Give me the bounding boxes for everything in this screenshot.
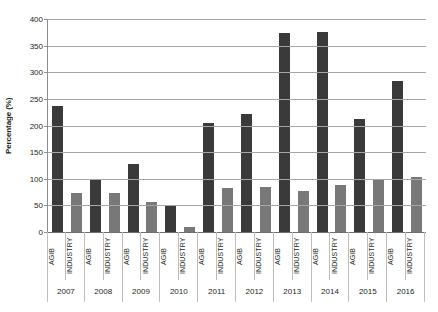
bar-2013-industry [298,191,309,232]
group-label-year: 2011 [208,287,225,296]
category-cell: AGIB [160,232,179,280]
group-label-year: 2010 [170,287,188,296]
y-tickmark [44,126,48,127]
group-cell-2008: 2008 [85,280,123,302]
group-label-year: 2014 [321,287,339,296]
category-cell: INDUSTRY [368,232,387,280]
category-cell: INDUSTRY [179,232,198,280]
y-tick-label: 200 [30,121,43,130]
bar-2014-industry [335,185,346,232]
category-axis: AGIBINDUSTRYAGIBINDUSTRYAGIBINDUSTRYAGIB… [47,232,425,312]
category-cell: INDUSTRY [331,232,350,280]
y-tickmark [44,19,48,20]
group-label-year: 2007 [57,287,75,296]
category-label-industry: INDUSTRY [368,234,386,278]
y-tick-label: 350 [30,41,43,50]
gridline [48,72,426,73]
category-label-agib: AGIB [387,234,405,278]
category-label-industry: INDUSTRY [104,234,122,278]
category-label-industry: INDUSTRY [406,234,424,278]
bar-2010-agib [165,206,176,232]
y-tick-label: 100 [30,174,43,183]
gridline [48,99,426,100]
bar-2012-industry [260,187,271,232]
category-cell: AGIB [387,232,406,280]
category-cell: INDUSTRY [406,232,425,280]
group-label-year: 2016 [397,287,415,296]
category-cell: AGIB [274,232,293,280]
group-cell-2015: 2015 [349,280,387,302]
category-label-agib: AGIB [236,234,254,278]
bar-2008-industry [109,193,120,232]
group-label-year: 2009 [132,287,150,296]
group-cell-2014: 2014 [312,280,350,302]
category-cell: AGIB [349,232,368,280]
bar-chart: Percentage (%) 400350300250200150100500 … [0,0,438,312]
category-label-industry: INDUSTRY [142,234,160,278]
y-axis-title: Percentage (%) [0,84,16,168]
bar-2014-agib [317,32,328,232]
category-cell: AGIB [123,232,142,280]
gridline [48,152,426,153]
category-cell: INDUSTRY [142,232,161,280]
y-tickmark [44,99,48,100]
category-cell: INDUSTRY [293,232,312,280]
gridline [48,19,426,20]
group-cell-2011: 2011 [198,280,236,302]
category-label-agib: AGIB [198,234,216,278]
y-tickmark [44,152,48,153]
group-cell-2010: 2010 [160,280,198,302]
category-label-industry: INDUSTRY [331,234,349,278]
group-label-year: 2015 [359,287,377,296]
bar-2011-industry [222,188,233,232]
y-tick-label: 300 [30,68,43,77]
group-label-year: 2012 [246,287,264,296]
category-label-industry: INDUSTRY [293,234,311,278]
bar-2012-agib [241,114,252,232]
y-tick-label: 0 [39,228,43,237]
bar-2015-agib [354,119,365,232]
category-label-industry: INDUSTRY [255,234,273,278]
category-cell: AGIB [312,232,331,280]
gridline [48,126,426,127]
y-tickmark [44,179,48,180]
group-cell-2009: 2009 [123,280,161,302]
category-cell: INDUSTRY [217,232,236,280]
gridline [48,179,426,180]
bar-2013-agib [279,33,290,232]
gridline [48,205,426,206]
bar-2016-agib [392,81,403,232]
group-cell-2012: 2012 [236,280,274,302]
category-label-agib: AGIB [349,234,367,278]
category-label-industry: INDUSTRY [179,234,197,278]
y-tick-label: 400 [30,15,43,24]
group-cell-2016: 2016 [387,280,425,302]
category-cell: INDUSTRY [66,232,85,280]
y-tickmark [44,46,48,47]
group-cell-2007: 2007 [47,280,85,302]
category-label-agib: AGIB [160,234,178,278]
group-label-year: 2008 [94,287,112,296]
group-label-year: 2013 [283,287,301,296]
category-label-industry: INDUSTRY [217,234,235,278]
category-label-agib: AGIB [48,234,65,278]
category-label-agib: AGIB [274,234,292,278]
y-tickmark [44,205,48,206]
y-axis-tick-labels: 400350300250200150100500 [17,12,45,240]
bar-2009-agib [128,164,139,232]
category-label-industry: INDUSTRY [66,234,84,278]
bar-2011-agib [203,123,214,232]
gridline [48,46,426,47]
plot-area [47,19,426,232]
y-tick-label: 150 [30,148,43,157]
category-cell: AGIB [198,232,217,280]
category-cell: INDUSTRY [255,232,274,280]
bar-2007-industry [71,193,82,232]
category-cell: AGIB [236,232,255,280]
category-label-agib: AGIB [312,234,330,278]
category-label-agib: AGIB [85,234,103,278]
y-tick-label: 250 [30,94,43,103]
group-cell-2013: 2013 [274,280,312,302]
category-cell: AGIB [47,232,66,280]
category-label-agib: AGIB [123,234,141,278]
